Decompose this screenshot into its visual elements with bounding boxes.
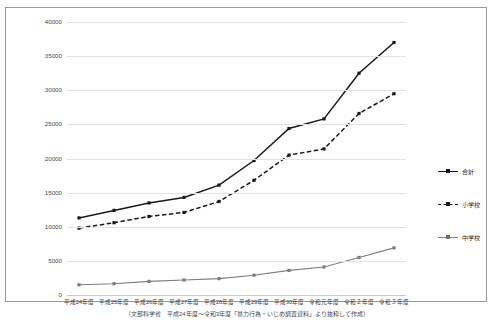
chart-data-point [112,209,115,212]
chart-data-point [147,201,150,204]
chart-series-line [79,248,394,285]
chart-data-point [217,200,220,203]
legend-item-elementary[interactable]: 小学校 [438,199,490,210]
chart-data-point [322,147,325,150]
chart-y-tick-label: 30000 [45,87,62,93]
chart-gridline [67,56,406,57]
legend-swatch-elementary-icon [438,200,458,209]
chart-x-tick-label: 平成28年度 [204,298,234,306]
legend-swatch-total-icon [438,167,458,176]
chart-x-tick-label: 平成24年度 [64,298,94,306]
chart-x-tick-label: 平成30年度 [274,298,304,306]
chart-x-tick-label: 令和２年度 [344,298,374,306]
chart-x-tick-label: 平成27年度 [169,298,199,306]
chart-x-tick-label: 平成25年度 [99,298,129,306]
chart-gridline [67,124,406,125]
chart-x-axis-labels: 平成24年度平成25年度平成26年度平成27年度平成28年度平成29年度平成30… [67,298,406,309]
legend-swatch-juniorhigh-icon [438,233,458,242]
chart-data-point [322,117,325,120]
chart-data-point [182,211,185,214]
chart-x-tick-label: 令和３年度 [379,298,409,306]
chart-y-tick-label: 35000 [45,53,62,59]
chart-data-point [287,269,290,272]
chart-data-point [252,179,255,182]
chart-data-point [322,265,325,268]
chart-data-point [112,282,115,285]
legend-item-juniorhigh[interactable]: 中学校 [438,232,490,243]
chart-data-point [392,246,395,249]
chart-data-point [287,154,290,157]
chart-y-tick-label: 15000 [45,190,62,196]
chart-gridline [67,193,406,194]
chart-data-point [77,216,80,219]
chart-frame: 0500010000150002000025000300003500040000… [5,7,487,302]
chart-plot-area: 0500010000150002000025000300003500040000 [67,22,406,295]
legend-label-elementary: 小学校 [462,201,480,208]
chart-y-tick-label: 20000 [45,155,62,161]
chart-data-point [112,221,115,224]
chart-x-tick-label: 平成29年度 [239,298,269,306]
chart-legend: 合計 小学校 中学校 [438,166,490,265]
chart-gridline [67,22,406,23]
chart-data-point [182,278,185,281]
chart-gridline [67,90,406,91]
chart-data-point [287,127,290,130]
chart-y-tick-label: 0 [59,292,62,298]
chart-data-point [217,277,220,280]
chart-data-point [217,184,220,187]
chart-data-point [357,256,360,259]
legend-item-total[interactable]: 合計 [438,166,490,177]
chart-data-point [252,274,255,277]
chart-data-point [77,283,80,286]
chart-y-tick-label: 10000 [45,224,62,230]
legend-label-total: 合計 [462,168,474,175]
chart-data-point [357,72,360,75]
chart-footnote: （文部科学省 平成24年度～令和3年度「暴力行為・いじめ調査資料」より抜粋して作… [0,310,494,318]
chart-y-tick-label: 25000 [45,121,62,127]
chart-data-point [147,215,150,218]
chart-y-tick-label: 40000 [45,19,62,25]
chart-x-tick-label: 令和元年度 [309,298,339,306]
chart-data-point [392,41,395,44]
chart-gridline [67,261,406,262]
legend-label-juniorhigh: 中学校 [462,234,480,241]
chart-gridline [67,227,406,228]
chart-gridline [67,159,406,160]
chart-x-tick-label: 平成26年度 [134,298,164,306]
chart-axis-baseline [67,295,406,296]
chart-data-point [182,196,185,199]
chart-data-point [357,112,360,115]
chart-y-tick-label: 5000 [48,258,62,264]
chart-data-point [392,92,395,95]
chart-data-point [147,280,150,283]
